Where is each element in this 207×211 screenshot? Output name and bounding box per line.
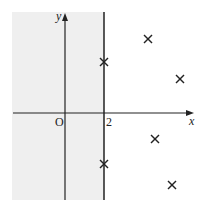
point-markers bbox=[100, 35, 184, 189]
shaded-region bbox=[12, 12, 104, 200]
origin-label: O bbox=[55, 116, 64, 128]
diagram-canvas bbox=[0, 0, 207, 211]
y-axis-label: y bbox=[56, 10, 61, 22]
tick-label-2: 2 bbox=[106, 116, 112, 128]
x-axis-label: x bbox=[189, 115, 194, 127]
